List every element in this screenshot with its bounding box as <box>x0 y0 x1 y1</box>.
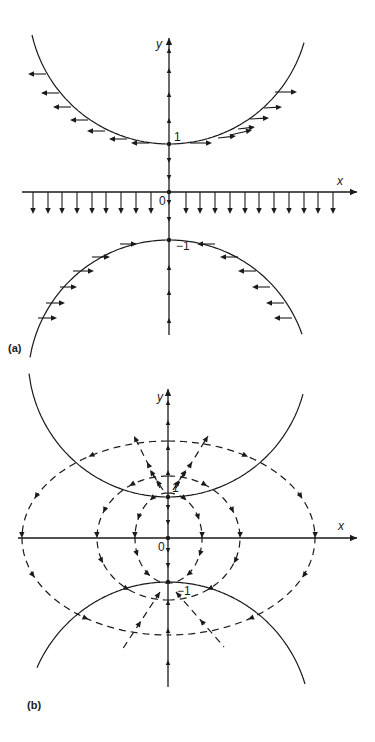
arrowhead-icon <box>249 125 255 130</box>
arrowhead-icon <box>201 481 208 486</box>
arrowhead-icon <box>242 208 247 214</box>
panel-label-b: (b) <box>27 700 41 711</box>
arrowhead-icon <box>220 254 226 259</box>
tick-label: 1 <box>172 482 179 494</box>
arrowhead-icon <box>212 208 217 214</box>
arrowhead-icon <box>313 532 318 538</box>
arrowhead-icon <box>286 208 291 214</box>
arrowhead-icon <box>271 208 276 214</box>
arrowhead-icon <box>301 208 306 214</box>
arrowhead-icon <box>167 118 172 123</box>
arrowhead-icon <box>137 513 142 520</box>
arrowhead-icon <box>166 628 171 633</box>
arrowhead-icon <box>166 548 171 553</box>
arrowhead-icon <box>103 208 108 214</box>
panel-a <box>22 35 357 357</box>
arrowhead-icon <box>165 389 171 396</box>
arrowhead-icon <box>248 615 255 620</box>
arrowhead-icon <box>94 532 99 538</box>
point-marker <box>167 190 171 194</box>
arrowhead-icon <box>133 550 138 557</box>
arrowhead-icon <box>199 532 204 538</box>
arrowhead-icon <box>166 520 171 525</box>
arrowhead-icon <box>167 290 172 295</box>
arrowhead-icon <box>166 38 172 45</box>
arrowhead-icon <box>41 90 47 95</box>
arrowhead-icon <box>131 140 137 145</box>
arrowhead-icon <box>166 600 171 605</box>
arrowhead-icon <box>82 615 89 620</box>
point-marker <box>167 238 171 242</box>
arrowhead-icon <box>167 265 172 270</box>
arrowhead-icon <box>74 208 79 214</box>
arrowhead-icon <box>195 513 200 520</box>
arrowhead-icon <box>51 315 57 320</box>
arrowhead-icon <box>252 284 258 289</box>
arrowhead-icon <box>166 505 171 510</box>
arrowhead-icon <box>88 268 94 273</box>
arrowhead-icon <box>150 470 156 477</box>
arrowhead-icon <box>276 105 282 110</box>
arrowhead-icon <box>197 241 203 246</box>
arrowhead-icon <box>166 420 171 425</box>
arrowhead-icon <box>35 492 40 499</box>
arrowhead-icon <box>166 445 171 450</box>
arrowhead-icon <box>150 494 156 500</box>
arrowhead-icon <box>199 550 204 557</box>
arrowhead-icon <box>147 462 152 469</box>
arrowhead-icon <box>131 241 137 246</box>
arrowhead-icon <box>315 208 320 214</box>
tick-label: −1 <box>177 585 191 597</box>
arrowhead-icon <box>118 208 123 214</box>
arrowhead-icon <box>166 563 171 568</box>
arrowhead-icon <box>274 315 280 320</box>
arrowhead-icon <box>167 318 172 323</box>
arrowhead-icon <box>87 128 93 133</box>
arrowhead-icon <box>229 506 234 513</box>
arrowhead-icon <box>59 300 65 305</box>
arrowhead-icon <box>53 104 59 109</box>
tick-label: 0 <box>158 541 165 553</box>
arrowhead-icon <box>103 506 108 513</box>
arrowhead-icon <box>266 300 272 305</box>
arrowhead-icon <box>71 284 77 289</box>
arrowhead-icon <box>197 208 202 214</box>
arrowhead-icon <box>132 532 137 538</box>
lower-curve <box>37 582 305 684</box>
vector-field-figure <box>0 0 375 742</box>
arrowhead-icon <box>167 158 172 163</box>
arrowhead-icon <box>167 68 172 73</box>
y-axis-label: y <box>156 38 162 50</box>
arrowhead-icon <box>237 532 242 538</box>
tick-label: 1 <box>174 131 181 143</box>
point-marker <box>166 536 170 540</box>
arrowhead-icon <box>167 92 172 97</box>
x-axis-label: x <box>338 520 344 532</box>
tick-label: 0 <box>159 195 166 207</box>
point-marker <box>166 495 170 499</box>
arrowhead-icon <box>45 208 50 214</box>
arrowhead-icon <box>167 200 172 205</box>
arrowhead-icon <box>148 208 153 214</box>
arrowhead-icon <box>166 660 171 665</box>
arrowhead-icon <box>330 208 335 214</box>
arrowhead-icon <box>166 400 171 405</box>
x-axis-label: x <box>337 175 343 187</box>
arrowhead-icon <box>263 116 269 121</box>
arrowhead-icon <box>28 71 34 76</box>
arrowhead-icon <box>166 470 171 475</box>
arrowhead-icon <box>183 208 188 214</box>
arrowhead-icon <box>180 494 186 500</box>
arrowhead-icon <box>227 208 232 214</box>
arrowhead-icon <box>200 620 206 626</box>
arrowhead-icon <box>135 621 141 627</box>
arrowhead-icon <box>129 481 136 486</box>
arrowhead-icon <box>256 208 261 214</box>
point-marker <box>166 580 170 584</box>
arrowhead-icon <box>167 175 172 180</box>
panel-label-a: (a) <box>8 343 21 354</box>
upper-curve <box>29 374 303 497</box>
arrowhead-icon <box>70 117 76 122</box>
arrowhead-icon <box>59 208 64 214</box>
arrowhead-icon <box>350 189 357 195</box>
